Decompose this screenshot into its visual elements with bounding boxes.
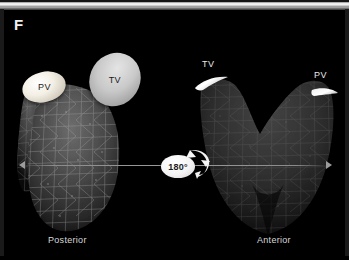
valve-label-pv-anterior: PV — [314, 70, 327, 80]
caption-posterior: Posterior — [48, 235, 87, 245]
valve-label-pv-posterior: PV — [38, 82, 51, 92]
panel-letter: F — [14, 16, 24, 33]
ventricle-mesh-anterior — [190, 76, 345, 242]
caption-anterior: Anterior — [257, 235, 291, 245]
image-stage: F — [4, 10, 345, 255]
rotation-arrow-right — [326, 161, 332, 169]
rotation-arrow-icon — [184, 149, 210, 179]
valve-label-tv-posterior: TV — [109, 75, 121, 85]
frame-right-edge — [345, 9, 349, 256]
figure-panel: F — [0, 0, 349, 260]
valve-tv-anterior — [194, 76, 234, 91]
rotation-arrow-left — [19, 161, 25, 169]
valve-pv-anterior — [310, 84, 340, 96]
valve-label-tv-anterior: TV — [202, 59, 214, 69]
ventricle-mesh-posterior — [12, 82, 152, 242]
